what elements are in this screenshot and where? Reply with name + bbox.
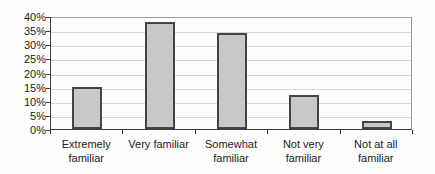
x-tick-mark bbox=[195, 130, 196, 134]
y-tick-mark bbox=[46, 88, 51, 89]
y-tick-label-0-: 0% bbox=[0, 124, 46, 136]
y-tick-label-30-: 30% bbox=[0, 39, 46, 51]
y-tick-mark bbox=[46, 74, 51, 75]
bar-extremely-familiar bbox=[72, 87, 102, 129]
y-tick-mark bbox=[46, 102, 51, 103]
x-category-label-not-at-all-familiar: Not at all familiar bbox=[341, 137, 411, 165]
bar-very-familiar bbox=[145, 22, 175, 129]
y-tick-label-10-: 10% bbox=[0, 96, 46, 108]
y-tick-mark bbox=[46, 31, 51, 32]
y-tick-label-25-: 25% bbox=[0, 53, 46, 65]
y-tick-label-20-: 20% bbox=[0, 68, 46, 80]
x-category-label-not-very-familiar: Not very familiar bbox=[268, 137, 338, 165]
bar-somewhat-familiar bbox=[217, 33, 247, 129]
x-tick-mark bbox=[340, 130, 341, 134]
y-tick-label-15-: 15% bbox=[0, 82, 46, 94]
x-category-label-extremely-familiar: Extremely familiar bbox=[51, 137, 121, 165]
y-tick-mark bbox=[46, 59, 51, 60]
x-category-label-somewhat-familiar: Somewhat familiar bbox=[196, 137, 266, 165]
x-tick-mark bbox=[267, 130, 268, 134]
y-tick-label-35-: 35% bbox=[0, 25, 46, 37]
plot-area bbox=[50, 17, 412, 130]
y-tick-mark bbox=[46, 116, 51, 117]
bar-not-at-all-familiar bbox=[362, 121, 392, 130]
x-tick-mark bbox=[412, 130, 413, 134]
y-tick-mark bbox=[46, 17, 51, 18]
bar-chart: 0%5%10%15%20%25%30%35%40%Extremely famil… bbox=[0, 0, 435, 174]
x-tick-mark bbox=[122, 130, 123, 134]
y-tick-mark bbox=[46, 45, 51, 46]
y-tick-label-5-: 5% bbox=[0, 110, 46, 122]
x-category-label-very-familiar: Very familiar bbox=[123, 137, 193, 151]
x-tick-mark bbox=[50, 130, 51, 134]
bar-not-very-familiar bbox=[289, 95, 319, 129]
y-tick-label-40-: 40% bbox=[0, 11, 46, 23]
